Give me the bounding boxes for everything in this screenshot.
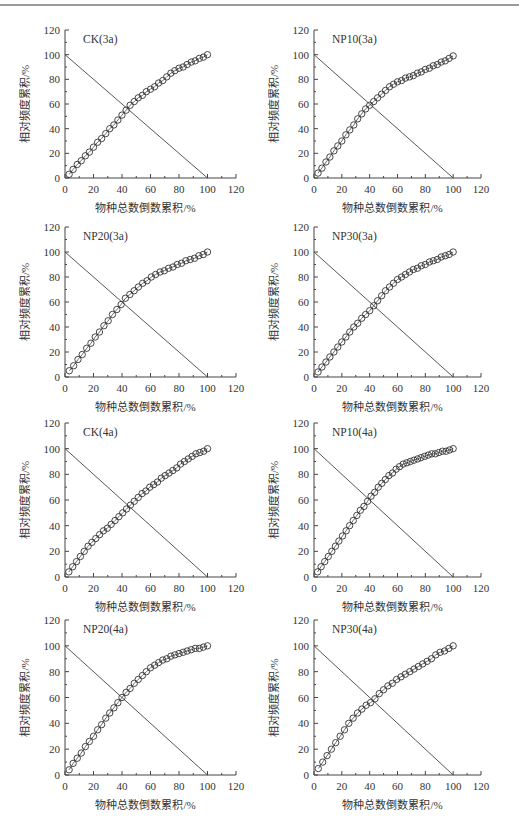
y-tick-label: 100 <box>293 443 310 455</box>
y-tick-label: 80 <box>49 666 61 678</box>
chart-title: NP20(3a) <box>83 230 128 243</box>
reference-line <box>314 449 453 577</box>
chart-title: NP20(4a) <box>83 623 128 636</box>
y-tick-label: 40 <box>298 123 310 135</box>
axes <box>65 423 236 577</box>
x-tick-label: 80 <box>420 780 432 792</box>
x-tick-label: 20 <box>336 382 348 394</box>
y-axis-label: 相对频度累积/% <box>267 461 280 539</box>
x-axis-label: 物种总数倒数累积/% <box>95 201 195 214</box>
y-tick-label: 40 <box>298 520 310 532</box>
x-tick-label: 20 <box>88 382 100 394</box>
y-tick-label: 20 <box>49 147 61 159</box>
series-cumulative <box>315 53 457 177</box>
x-tick-label: 20 <box>336 582 348 594</box>
x-tick-label: 20 <box>336 183 348 195</box>
x-axis-ticks: 020406080100120 <box>311 373 490 394</box>
y-tick-label: 120 <box>44 417 61 429</box>
y-tick-label: 60 <box>49 296 61 308</box>
chart-ck-3a: 020406080100120020406080100120物种总数倒数累积/%… <box>15 24 246 224</box>
y-tick-label: 60 <box>298 98 310 110</box>
y-tick-label: 0 <box>55 172 61 184</box>
x-tick-label: 120 <box>228 780 245 792</box>
y-tick-label: 20 <box>298 147 310 159</box>
y-axis-label: 相对频度累积/% <box>267 263 280 341</box>
y-tick-label: 0 <box>55 571 61 583</box>
y-tick-label: 20 <box>298 346 310 358</box>
chart-title: NP30(3a) <box>332 230 377 243</box>
x-tick-label: 80 <box>174 780 186 792</box>
y-tick-label: 100 <box>293 640 310 652</box>
series-cumulative <box>66 445 211 575</box>
axes <box>314 30 481 178</box>
axes <box>65 30 236 178</box>
y-tick-label: 80 <box>298 271 310 283</box>
y-tick-label: 0 <box>55 371 61 383</box>
reference-line <box>314 646 453 775</box>
y-tick-label: 80 <box>49 271 61 283</box>
x-tick-label: 100 <box>445 183 462 195</box>
chart-np30-4a: 020406080100120020406080100120物种总数倒数累积/%… <box>264 614 491 821</box>
x-tick-label: 100 <box>199 183 216 195</box>
y-tick-label: 60 <box>298 296 310 308</box>
y-tick-label: 120 <box>293 221 310 233</box>
y-tick-label: 120 <box>44 221 61 233</box>
y-tick-label: 40 <box>49 123 61 135</box>
y-axis-label: 相对频度累积/% <box>18 461 31 539</box>
x-axis-label: 物种总数倒数累积/% <box>95 798 195 811</box>
y-tick-label: 0 <box>55 769 61 781</box>
y-tick-label: 0 <box>304 769 310 781</box>
x-tick-label: 40 <box>117 780 129 792</box>
x-tick-label: 0 <box>62 183 68 195</box>
x-tick-label: 20 <box>88 582 100 594</box>
chart-title: CK(3a) <box>83 33 118 46</box>
chart-ck-4a: 020406080100120020406080100120物种总数倒数累积/%… <box>15 417 246 623</box>
y-tick-label: 100 <box>293 246 310 258</box>
x-tick-label: 80 <box>420 582 432 594</box>
y-tick-label: 40 <box>49 321 61 333</box>
x-axis-label: 物种总数倒数累积/% <box>95 400 195 413</box>
x-tick-label: 0 <box>311 780 317 792</box>
x-tick-label: 100 <box>199 382 216 394</box>
x-axis-ticks: 020406080100120 <box>311 573 490 594</box>
axes <box>65 620 236 775</box>
x-tick-label: 40 <box>117 582 129 594</box>
x-tick-label: 100 <box>199 582 216 594</box>
y-tick-label: 40 <box>298 717 310 729</box>
x-tick-label: 120 <box>473 183 490 195</box>
x-tick-label: 20 <box>88 780 100 792</box>
chart-np20-4a: 020406080100120020406080100120物种总数倒数累积/%… <box>15 614 246 821</box>
y-tick-label: 20 <box>49 346 61 358</box>
y-tick-label: 80 <box>49 468 61 480</box>
y-tick-label: 0 <box>304 172 310 184</box>
y-tick-label: 80 <box>49 73 61 85</box>
y-tick-label: 100 <box>44 246 61 258</box>
y-tick-label: 60 <box>298 692 310 704</box>
x-axis-label: 物种总数倒数累积/% <box>342 400 442 413</box>
x-axis-ticks: 020406080100120 <box>62 174 245 195</box>
y-tick-label: 60 <box>49 98 61 110</box>
chart-title: CK(4a) <box>83 426 118 439</box>
header-rule <box>0 4 519 6</box>
y-tick-label: 0 <box>304 371 310 383</box>
x-tick-label: 100 <box>445 382 462 394</box>
reference-line <box>65 449 208 577</box>
x-tick-label: 80 <box>174 183 186 195</box>
y-axis-label: 相对频度累积/% <box>267 65 280 143</box>
x-tick-label: 120 <box>473 582 490 594</box>
reference-line <box>314 55 453 178</box>
x-tick-label: 120 <box>228 183 245 195</box>
y-tick-label: 80 <box>298 468 310 480</box>
x-tick-label: 80 <box>420 183 432 195</box>
x-axis-ticks: 020406080100120 <box>311 174 490 195</box>
x-tick-label: 60 <box>392 582 404 594</box>
y-tick-label: 120 <box>44 614 61 626</box>
y-tick-label: 60 <box>298 494 310 506</box>
y-tick-label: 0 <box>304 571 310 583</box>
series-cumulative <box>314 445 456 575</box>
y-tick-label: 40 <box>49 717 61 729</box>
x-tick-label: 60 <box>392 183 404 195</box>
x-tick-label: 60 <box>145 382 157 394</box>
y-tick-label: 60 <box>49 494 61 506</box>
x-axis-label: 物种总数倒数累积/% <box>95 600 195 613</box>
